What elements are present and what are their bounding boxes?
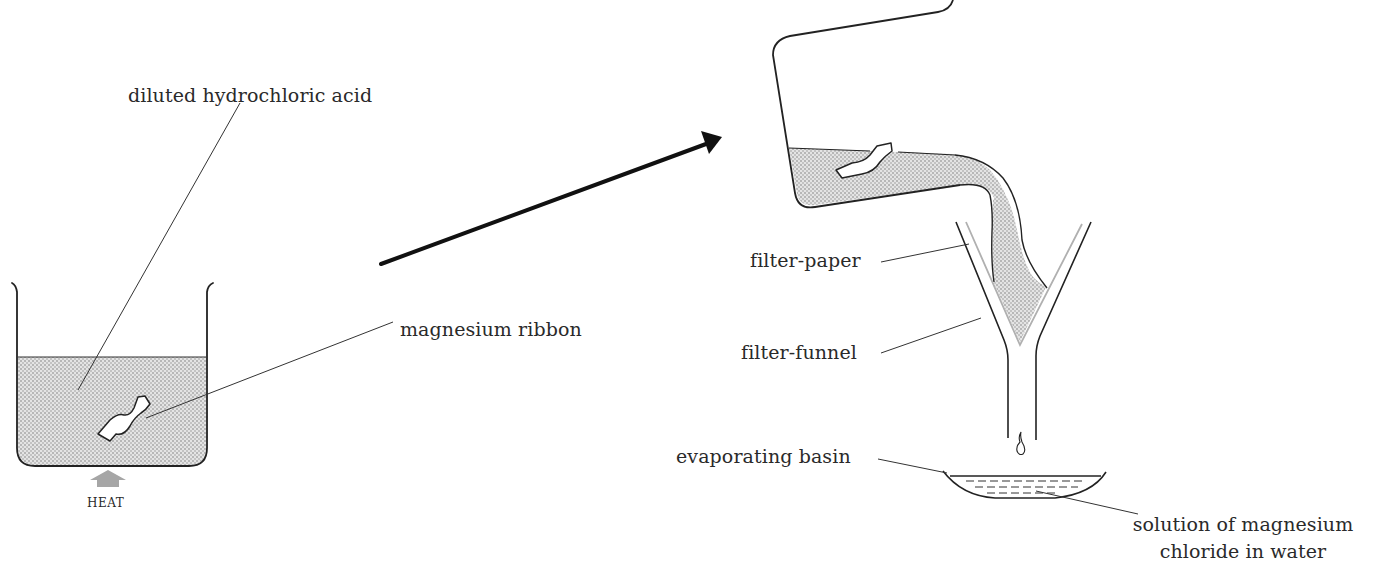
label-diluted-hydrochloric-acid: diluted hydrochloric acid <box>128 86 372 105</box>
heat-arrow-icon <box>90 470 126 487</box>
solution-surface-dashes <box>966 481 1085 493</box>
drop-icon <box>1017 432 1025 455</box>
filter-funnel <box>956 222 1091 455</box>
label-magnesium-ribbon: magnesium ribbon <box>400 320 582 339</box>
label-evaporating-basin: evaporating basin <box>676 447 851 466</box>
funnel-right-wall <box>1036 222 1091 440</box>
basin-leader-line <box>878 459 947 473</box>
label-solution-line1: solution of magnesium <box>1108 515 1377 534</box>
arrowhead-icon <box>701 131 722 154</box>
label-solution-line2: chloride in water <box>1108 542 1377 561</box>
evaporating-basin <box>943 471 1106 498</box>
filter-paper-leader-line <box>881 244 969 262</box>
beaker-pouring <box>773 0 1047 342</box>
diagram-canvas: diluted hydrochloric acid magnesium ribb… <box>0 0 1377 573</box>
basin-outline <box>943 471 1106 498</box>
filter-funnel-leader-line <box>881 318 981 353</box>
acid-liquid <box>18 357 206 465</box>
label-filter-funnel: filter-funnel <box>741 343 857 362</box>
solution-leader-line <box>1036 491 1138 514</box>
process-arrow <box>381 131 722 264</box>
label-heat: HEAT <box>87 497 124 509</box>
label-filter-paper: filter-paper <box>750 251 861 270</box>
beaker-left <box>12 283 213 487</box>
acid-leader-line <box>78 103 240 390</box>
liquid-in-funnel <box>993 190 1047 342</box>
